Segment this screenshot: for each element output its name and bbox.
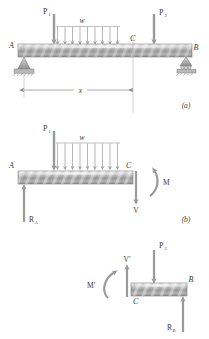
end-label-b-c: B <box>189 275 194 284</box>
panel-a: w P 1 P 2 A B C <box>8 7 199 113</box>
moment-label-m-b: M <box>163 178 170 187</box>
beam-b <box>18 171 133 184</box>
shear-label-v-prime: V' <box>124 255 131 264</box>
dimension-label-x: x <box>78 86 83 95</box>
beam-c <box>131 283 187 296</box>
point-load-p1-label-a: P <box>43 7 48 16</box>
point-load-p2-label-a: P <box>159 8 164 17</box>
figure-canvas: w P 1 P 2 A B C <box>0 0 209 339</box>
shear-v-prime-c: V' <box>124 255 131 297</box>
beam-a <box>18 44 192 57</box>
point-load-p1-sub-a: 1 <box>49 12 52 17</box>
distributed-load-label-a: w <box>79 16 84 25</box>
reaction-sub-ra: A <box>35 220 39 225</box>
reaction-ra-b: R A <box>24 187 39 225</box>
load-arrows <box>58 27 118 43</box>
moment-m-b: M <box>150 170 170 196</box>
end-label-a-b: A <box>8 161 14 170</box>
cut-label-c-b: C <box>126 161 132 170</box>
distributed-load-b: w <box>56 133 120 168</box>
panel-c: P 2 B C V' M' R B <box>87 241 194 333</box>
support-label-a-left: A <box>8 41 14 50</box>
beam-highlight <box>131 284 187 286</box>
curved-moment-arrow-icon <box>104 272 115 298</box>
roller-support-icon <box>177 57 197 76</box>
load-arrows <box>58 144 118 169</box>
panel-caption-b: (b) <box>182 215 191 224</box>
moment-label-m-prime: M' <box>87 281 96 290</box>
reaction-sub-rb: B <box>173 328 176 333</box>
beam-highlight <box>18 46 192 48</box>
point-load-p1-label-b: P <box>43 124 48 133</box>
reaction-label-rb: R <box>167 323 172 332</box>
point-load-p1-a: P 1 <box>43 7 54 42</box>
point-load-p2-label-c: P <box>159 241 164 250</box>
distributed-load-a: w <box>56 16 120 43</box>
point-load-p2-a: P 2 <box>154 8 168 42</box>
beam-highlight <box>18 172 133 174</box>
point-load-p1-b: P 1 <box>43 124 54 168</box>
distributed-load-label-b: w <box>79 133 84 142</box>
point-load-p2-c: P 2 <box>154 241 168 281</box>
panel-caption-a: (a) <box>182 101 191 110</box>
point-load-p1-sub-b: 1 <box>49 129 52 134</box>
beam-free-body-diagram: w P 1 P 2 A B C <box>0 0 209 339</box>
shear-label-v-b: V <box>133 206 139 215</box>
point-load-p2-sub-a: 2 <box>165 13 168 18</box>
point-load-p2-sub-c: 2 <box>165 246 168 251</box>
panel-b: w P 1 A C V M R A <box>8 124 191 225</box>
cut-label-c-c: C <box>133 297 139 306</box>
reaction-label-ra: R <box>29 215 34 224</box>
moment-m-prime-c: M' <box>87 272 115 298</box>
reaction-rb-c: R B <box>167 299 183 333</box>
shear-v-b: V <box>133 171 139 215</box>
curved-moment-arrow-icon <box>150 170 157 196</box>
support-label-b-right: B <box>194 43 199 52</box>
